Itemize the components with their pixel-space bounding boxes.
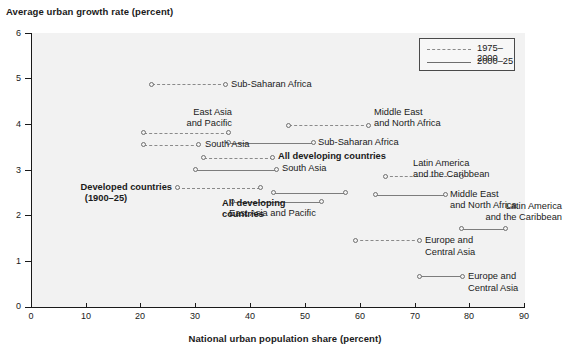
series-line-13 xyxy=(355,240,419,241)
legend-label-2000-25: 2000–25 xyxy=(477,56,513,66)
series-label-eca-2000-line2: Central Asia xyxy=(468,283,518,295)
x-tick-label-0: 0 xyxy=(11,311,51,321)
x-tick-mark-80 xyxy=(469,303,470,308)
series-label-east-asia-pacific-2000: East Asia and Pacific xyxy=(229,208,316,220)
x-tick-label-10: 10 xyxy=(66,311,106,321)
series-label-developed-countries-line2: (1900–25) xyxy=(40,193,172,205)
data-point-end-3[interactable] xyxy=(366,123,371,128)
series-line-5 xyxy=(204,158,273,159)
series-line-8 xyxy=(177,188,260,189)
x-tick-mark-30 xyxy=(195,303,196,308)
x-tick-mark-70 xyxy=(415,303,416,308)
series-label-developed-countries-line1: Developed countries xyxy=(40,182,172,194)
x-tick-mark-50 xyxy=(305,303,306,308)
series-line-1 xyxy=(144,133,229,134)
y-tick-label-3: 3 xyxy=(0,165,21,175)
y-tick-label-4: 4 xyxy=(0,119,21,129)
y-tick-mark-6 xyxy=(25,33,31,34)
legend-item-2000-25: 2000–25 xyxy=(420,56,514,69)
data-point-start-8[interactable] xyxy=(175,185,180,190)
y-axis-title: Average urban growth rate (percent) xyxy=(6,6,173,17)
legend-swatch-solid-icon xyxy=(427,62,471,63)
y-tick-mark-4 xyxy=(25,124,31,125)
y-tick-mark-1 xyxy=(25,261,31,262)
series-label-lac-1975-line2: and the Caribbean xyxy=(413,169,490,181)
y-tick-mark-2 xyxy=(25,215,31,216)
series-line-0 xyxy=(152,84,226,85)
legend-swatch-dashed-icon xyxy=(427,49,471,50)
series-line-9 xyxy=(376,195,446,196)
data-point-end-6[interactable] xyxy=(274,167,279,172)
chart-root: Average urban growth rate (percent) 6 5 … xyxy=(0,0,570,355)
data-point-end-13[interactable] xyxy=(417,238,422,243)
x-tick-mark-0 xyxy=(31,303,32,308)
x-tick-mark-40 xyxy=(250,303,251,308)
series-label-lac-1975-line1: Latin America xyxy=(413,158,469,170)
series-label-mena-1975-line1: Middle East xyxy=(374,107,423,119)
data-point-start-0[interactable] xyxy=(149,82,154,87)
x-tick-mark-10 xyxy=(86,303,87,308)
x-tick-label-40: 40 xyxy=(230,311,270,321)
series-label-east-asia-pacific-1975-line2: and Pacific xyxy=(150,118,232,130)
x-tick-mark-20 xyxy=(140,303,141,308)
series-label-sub-saharan-africa-2000: Sub-Saharan Africa xyxy=(318,137,399,149)
x-axis-line xyxy=(31,307,525,308)
series-line-14 xyxy=(420,276,463,277)
y-tick-mark-5 xyxy=(25,78,31,79)
y-tick-mark-3 xyxy=(25,170,31,171)
data-point-start-13[interactable] xyxy=(353,238,358,243)
series-label-lac-2000-line1: Latin America xyxy=(420,201,562,213)
series-line-10 xyxy=(274,193,346,194)
legend: 1975–2000 2000–25 xyxy=(419,38,515,71)
y-tick-label-1: 1 xyxy=(0,256,21,266)
x-tick-label-90: 90 xyxy=(504,311,544,321)
x-tick-label-70: 70 xyxy=(395,311,435,321)
series-line-12 xyxy=(461,229,505,230)
y-tick-label-6: 6 xyxy=(0,28,21,38)
series-label-eca-1975-line1: Europe and xyxy=(425,235,473,247)
y-tick-label-5: 5 xyxy=(0,73,21,83)
series-label-east-asia-pacific-1975-line1: East Asia xyxy=(150,107,232,119)
x-tick-label-50: 50 xyxy=(285,311,325,321)
data-point-start-14[interactable] xyxy=(417,274,422,279)
legend-item-1975-2000: 1975–2000 xyxy=(420,43,514,56)
series-line-6 xyxy=(196,170,277,171)
series-label-lac-2000-line2: and the Caribbean xyxy=(420,212,562,224)
series-label-sub-saharan-africa-1975: Sub-Saharan Africa xyxy=(231,79,312,91)
series-line-3 xyxy=(289,125,369,126)
series-label-eca-1975-line2: Central Asia xyxy=(425,247,475,259)
series-label-south-asia-2000: South Asia xyxy=(282,163,326,175)
x-tick-mark-90 xyxy=(524,303,525,308)
series-label-eca-2000-line1: Europe and xyxy=(468,271,516,283)
data-point-start-7[interactable] xyxy=(383,174,388,179)
x-tick-mark-60 xyxy=(360,303,361,308)
data-point-end-14[interactable] xyxy=(460,274,465,279)
x-axis-title: National urban population share (percent… xyxy=(0,333,570,344)
series-label-all-developing-1975: All developing countries xyxy=(278,151,386,163)
series-label-mena-2000-line1: Middle East xyxy=(450,189,499,201)
y-tick-label-0: 0 xyxy=(0,301,21,311)
x-tick-label-30: 30 xyxy=(175,311,215,321)
x-tick-label-20: 20 xyxy=(120,311,160,321)
series-line-2 xyxy=(144,145,199,146)
x-tick-label-80: 80 xyxy=(449,311,489,321)
series-label-south-asia-1975: South Asia xyxy=(205,139,249,151)
y-tick-label-2: 2 xyxy=(0,210,21,220)
y-axis-line xyxy=(31,33,32,308)
x-tick-label-60: 60 xyxy=(340,311,380,321)
series-label-mena-1975-line2: and North Africa xyxy=(374,118,441,130)
